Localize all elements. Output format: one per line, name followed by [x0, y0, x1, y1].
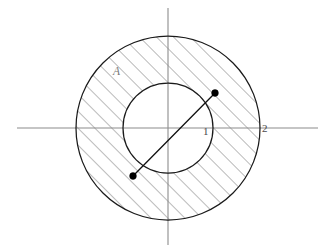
- annulus-figure: [0, 0, 326, 252]
- hatched-annulus-region: [0, 0, 326, 252]
- point-upper-right: [212, 90, 219, 97]
- x-tick-label-2: 2: [262, 123, 268, 134]
- region-label-a: A: [113, 66, 120, 78]
- x-tick-label-1: 1: [203, 126, 209, 137]
- figure-container: A 1 2: [0, 0, 326, 252]
- point-lower-left: [130, 173, 137, 180]
